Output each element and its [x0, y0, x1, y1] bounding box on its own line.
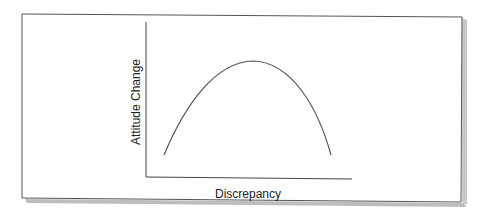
y-axis-label: Attitude Change — [129, 59, 143, 145]
x-axis-label: Discrepancy — [215, 187, 281, 201]
figure-frame: Attitude Change Discrepancy — [0, 0, 481, 219]
frame-shadow-right — [462, 18, 467, 205]
frame-border — [22, 14, 462, 202]
